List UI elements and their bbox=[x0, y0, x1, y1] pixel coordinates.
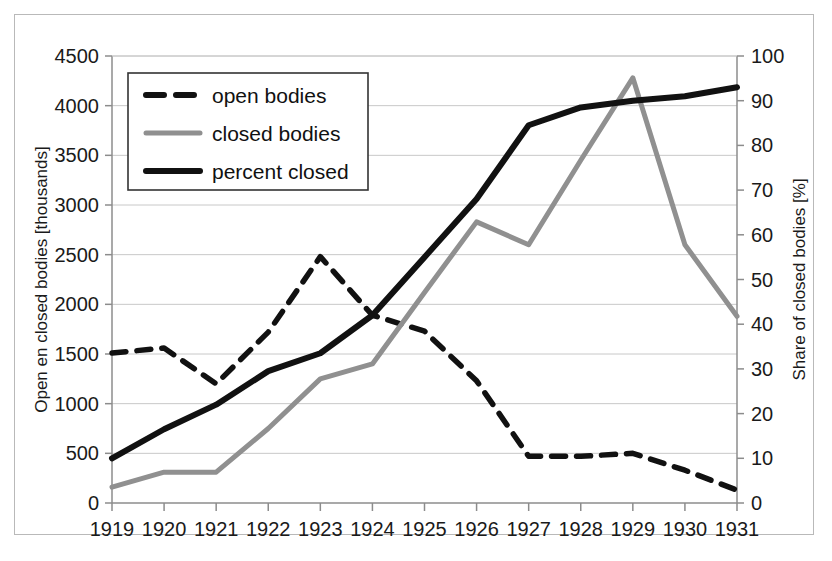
right-tick-label: 50 bbox=[751, 269, 773, 291]
chart-plot-area: 050010001500200025003000350040004500 010… bbox=[0, 0, 832, 561]
left-tick-label: 1000 bbox=[55, 393, 100, 415]
x-tick-label: 1927 bbox=[506, 518, 551, 540]
right-tick-label: 20 bbox=[751, 403, 773, 425]
left-tick-label: 3500 bbox=[55, 144, 100, 166]
right-tick-label: 10 bbox=[751, 447, 773, 469]
left-axis-ticks: 050010001500200025003000350040004500 bbox=[55, 45, 113, 514]
x-tick-label: 1928 bbox=[559, 518, 604, 540]
right-tick-label: 60 bbox=[751, 224, 773, 246]
right-tick-label: 70 bbox=[751, 179, 773, 201]
right-tick-label: 100 bbox=[751, 45, 784, 67]
x-tick-label: 1925 bbox=[402, 518, 447, 540]
left-tick-label: 1500 bbox=[55, 343, 100, 365]
x-tick-label: 1922 bbox=[246, 518, 291, 540]
left-tick-label: 4500 bbox=[55, 45, 100, 67]
right-tick-label: 0 bbox=[751, 492, 762, 514]
right-tick-label: 30 bbox=[751, 358, 773, 380]
left-tick-label: 3000 bbox=[55, 194, 100, 216]
x-tick-label: 1930 bbox=[663, 518, 708, 540]
x-tick-label: 1919 bbox=[90, 518, 135, 540]
x-tick-label: 1931 bbox=[715, 518, 760, 540]
right-axis-ticks: 0102030405060708090100 bbox=[737, 45, 784, 514]
legend-label: percent closed bbox=[212, 160, 349, 183]
chart-screenshot: 050010001500200025003000350040004500 010… bbox=[0, 0, 832, 561]
left-tick-label: 500 bbox=[66, 442, 99, 464]
right-axis-title: Share of closed bodies [%] bbox=[790, 178, 809, 380]
legend-label: closed bodies bbox=[212, 122, 340, 145]
x-tick-label: 1921 bbox=[194, 518, 239, 540]
right-tick-label: 80 bbox=[751, 134, 773, 156]
x-tick-label: 1924 bbox=[350, 518, 395, 540]
x-axis-ticks: 1919192019211922192319241925192619271928… bbox=[90, 503, 760, 540]
right-tick-label: 40 bbox=[751, 313, 773, 335]
x-tick-label: 1926 bbox=[454, 518, 499, 540]
x-tick-label: 1923 bbox=[298, 518, 343, 540]
left-tick-label: 4000 bbox=[55, 95, 100, 117]
left-tick-label: 2500 bbox=[55, 244, 100, 266]
left-tick-label: 0 bbox=[88, 492, 99, 514]
left-tick-label: 2000 bbox=[55, 293, 100, 315]
chart-legend: open bodiesclosed bodiespercent closed bbox=[128, 73, 368, 190]
line-chart-svg: 050010001500200025003000350040004500 010… bbox=[0, 0, 832, 561]
right-tick-label: 90 bbox=[751, 90, 773, 112]
left-axis-title: Open en closed bodies [thousands] bbox=[32, 146, 51, 413]
legend-label: open bodies bbox=[212, 84, 326, 107]
x-tick-label: 1929 bbox=[611, 518, 656, 540]
x-tick-label: 1920 bbox=[142, 518, 187, 540]
